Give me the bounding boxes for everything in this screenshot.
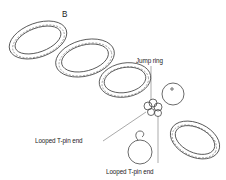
bead-bottom <box>128 131 152 164</box>
looped-tpin-end-label-left: Looped T-pin end <box>35 137 82 144</box>
bead-top <box>162 83 184 105</box>
panel-label: B <box>62 9 67 19</box>
jump-rings <box>144 99 162 117</box>
textured-ring-4 <box>164 114 225 167</box>
tpin-left-leader <box>103 112 146 141</box>
looped-tpin-end-label-bottom: Looped T-pin end <box>106 168 153 175</box>
jewelry-chain-diagram <box>0 0 226 180</box>
jump-ring-label: Jump ring <box>136 57 163 64</box>
